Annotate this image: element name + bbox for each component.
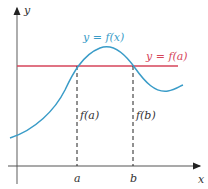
b-label: b [130, 172, 137, 185]
fb-label: f(b) [135, 109, 156, 122]
line-label: y = f(a) [145, 50, 188, 63]
curve-label: y = f(x) [82, 31, 124, 44]
y-axis-label: y [23, 4, 31, 17]
a-label: a [74, 172, 81, 185]
x-axis-label: x [198, 173, 205, 186]
diagram-canvas: y x y = f(x) y = f(a) f(a) f(b) a b [0, 0, 208, 189]
fa-label: f(a) [79, 109, 99, 122]
